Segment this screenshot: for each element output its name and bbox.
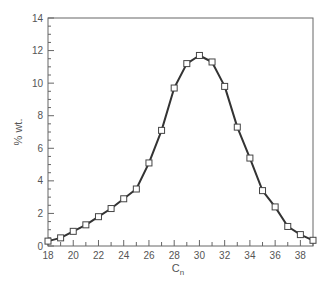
x-axis: 1820222426283032343638 [42,240,313,261]
x-axis-label-subscript: n [180,268,184,277]
y-axis-label: % wt. [12,119,24,146]
data-point-marker [95,214,101,220]
data-point-marker [83,222,89,228]
data-point-marker [285,223,291,229]
x-tick-label: 36 [270,250,282,261]
x-tick-label: 18 [42,250,54,261]
data-point-marker [146,160,152,166]
series-line [48,56,313,242]
x-tick-label: 22 [93,250,105,261]
data-series [45,52,316,244]
x-tick-label: 24 [118,250,130,261]
plot-area [48,18,313,246]
y-tick-label: 8 [37,110,43,121]
x-tick-label: 20 [68,250,80,261]
data-point-marker [45,238,51,244]
x-tick-label: 34 [244,250,256,261]
chart: 02468101214 1820222426283032343638 % wt.… [0,0,329,286]
data-point-marker [196,52,202,58]
x-tick-label: 38 [295,250,307,261]
x-axis-label-main: C [172,262,180,274]
x-tick-label: 30 [194,250,206,261]
data-point-marker [184,61,190,67]
y-tick-label: 12 [32,45,44,56]
data-point-marker [272,204,278,210]
x-tick-label: 32 [219,250,231,261]
x-tick-label: 28 [169,250,181,261]
data-point-marker [133,186,139,192]
data-point-marker [58,235,64,241]
y-tick-label: 10 [32,78,44,89]
data-point-marker [310,237,316,243]
data-point-marker [70,228,76,234]
data-point-marker [209,59,215,65]
y-tick-label: 4 [37,175,43,186]
data-point-marker [234,124,240,130]
data-point-marker [108,206,114,212]
y-axis: 02468101214 [32,13,54,252]
plot-frame [48,18,313,246]
data-point-marker [171,85,177,91]
y-tick-label: 2 [37,208,43,219]
data-point-marker [222,83,228,89]
data-point-marker [247,155,253,161]
data-point-marker [159,127,165,133]
y-tick-label: 14 [32,13,44,24]
data-point-marker [297,232,303,238]
x-axis-label: Cn [172,262,184,277]
x-tick-label: 26 [143,250,155,261]
data-point-marker [121,196,127,202]
data-point-marker [260,188,266,194]
y-tick-label: 6 [37,143,43,154]
